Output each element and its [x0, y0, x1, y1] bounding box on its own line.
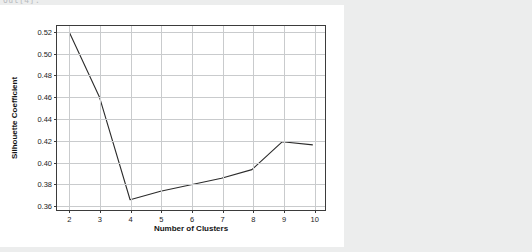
x-tick-label: 7	[221, 215, 225, 224]
x-tick-mark	[161, 210, 162, 213]
y-tick-mark	[54, 54, 57, 55]
x-tick-mark	[69, 210, 70, 213]
x-tick-mark	[192, 210, 193, 213]
x-tick-label: 10	[311, 215, 319, 224]
y-tick-label: 0.38	[37, 180, 52, 189]
x-tick-mark	[253, 210, 254, 213]
y-tick-mark	[54, 206, 57, 207]
y-tick-label: 0.40	[37, 158, 52, 167]
x-tick-mark	[284, 210, 285, 213]
x-axis-title: Number of Clusters	[56, 224, 326, 233]
gridline-vertical	[100, 26, 101, 210]
y-axis-title: Silhouette Coefficient	[10, 77, 19, 159]
x-tick-mark	[315, 210, 316, 213]
y-tick-label: 0.42	[37, 136, 52, 145]
gridline-vertical	[223, 26, 224, 210]
x-tick-mark	[223, 210, 224, 213]
gridline-vertical	[253, 26, 254, 210]
y-tick-label: 0.52	[37, 27, 52, 36]
gridline-vertical	[315, 26, 316, 210]
y-tick-mark	[54, 163, 57, 164]
y-tick-label: 0.36	[37, 202, 52, 211]
page-root: Out[4]: 0.360.380.400.420.440.460.480.50…	[0, 0, 532, 252]
gridline-vertical	[284, 26, 285, 210]
y-tick-label: 0.46	[37, 93, 52, 102]
y-tick-label: 0.50	[37, 49, 52, 58]
y-tick-mark	[54, 119, 57, 120]
x-tick-label: 4	[129, 215, 133, 224]
y-tick-mark	[54, 32, 57, 33]
chart-figure-panel: 0.360.380.400.420.440.460.480.500.522345…	[0, 5, 344, 247]
x-tick-label: 6	[190, 215, 194, 224]
plot-area: 0.360.380.400.420.440.460.480.500.522345…	[56, 25, 326, 211]
x-tick-label: 3	[98, 215, 102, 224]
y-tick-mark	[54, 97, 57, 98]
y-tick-label: 0.44	[37, 115, 52, 124]
y-tick-mark	[54, 184, 57, 185]
gridline-vertical	[161, 26, 162, 210]
gridline-vertical	[131, 26, 132, 210]
x-tick-mark	[131, 210, 132, 213]
gridline-vertical	[192, 26, 193, 210]
x-tick-label: 8	[251, 215, 255, 224]
y-tick-label: 0.48	[37, 71, 52, 80]
gridline-vertical	[69, 26, 70, 210]
y-tick-mark	[54, 75, 57, 76]
y-tick-mark	[54, 141, 57, 142]
x-tick-mark	[100, 210, 101, 213]
x-tick-label: 9	[282, 215, 286, 224]
x-tick-label: 5	[159, 215, 163, 224]
x-tick-label: 2	[67, 215, 71, 224]
